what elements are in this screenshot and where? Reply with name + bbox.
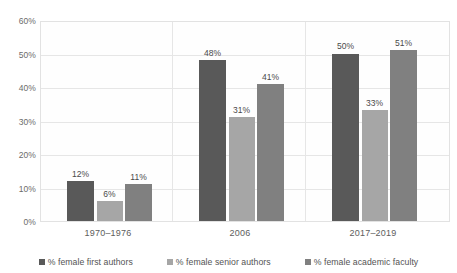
y-tick-label-0: 0% bbox=[2, 218, 36, 227]
y-tick-label-60: 60% bbox=[2, 17, 36, 26]
plot-area: 12% 6% 11% 48% 31% 41% 50% 33% 51% bbox=[40, 21, 450, 222]
bar-chart: 60% 50% 40% 30% 20% 10% 0% 12% 6% 11% 48… bbox=[0, 0, 457, 273]
legend-label-2: % female senior authors bbox=[176, 258, 271, 267]
x-category-label-1: 1970–1976 bbox=[85, 228, 132, 238]
legend-swatch-icon-2 bbox=[167, 259, 173, 265]
chart-legend: % female first authors % female senior a… bbox=[0, 253, 457, 271]
gridline-50 bbox=[41, 55, 449, 56]
bar-value-g3-s3: 51% bbox=[395, 39, 412, 48]
bar-value-g1-s1: 12% bbox=[72, 170, 89, 179]
group-separator-1 bbox=[172, 22, 173, 221]
y-axis: 60% 50% 40% 30% 20% 10% 0% bbox=[0, 21, 36, 222]
bar-g3-s3 bbox=[390, 50, 417, 221]
legend-swatch-icon-1 bbox=[39, 259, 45, 265]
bar-value-g2-s2: 31% bbox=[233, 106, 250, 115]
x-category-label-3: 2017–2019 bbox=[350, 228, 397, 238]
bar-value-g2-s3: 41% bbox=[262, 73, 279, 82]
bar-g3-s2 bbox=[362, 110, 388, 221]
bar-g1-s3 bbox=[125, 184, 152, 221]
bar-value-g2-s1: 48% bbox=[204, 49, 221, 58]
legend-label-3: % female academic faculty bbox=[314, 258, 419, 267]
bar-g2-s2 bbox=[229, 117, 255, 221]
y-tick-label-10: 10% bbox=[2, 184, 36, 193]
bar-value-g1-s2: 6% bbox=[103, 190, 115, 199]
legend-item-female-senior-authors[interactable]: % female senior authors bbox=[167, 258, 271, 267]
bar-value-g3-s1: 50% bbox=[337, 42, 354, 51]
bar-g2-s3 bbox=[257, 84, 284, 221]
x-category-label-2: 2006 bbox=[230, 228, 251, 238]
bar-g1-s1 bbox=[67, 181, 94, 221]
y-tick-label-40: 40% bbox=[2, 84, 36, 93]
bar-value-g1-s3: 11% bbox=[130, 173, 146, 182]
legend-item-female-academic-faculty[interactable]: % female academic faculty bbox=[305, 258, 419, 267]
bar-g1-s2 bbox=[97, 201, 123, 221]
y-tick-label-30: 30% bbox=[2, 117, 36, 126]
gridline-40 bbox=[41, 88, 449, 89]
bar-g3-s1 bbox=[332, 54, 359, 222]
legend-item-female-first-authors[interactable]: % female first authors bbox=[39, 258, 133, 267]
bar-value-g3-s2: 33% bbox=[366, 99, 383, 108]
y-tick-label-50: 50% bbox=[2, 50, 36, 59]
legend-label-1: % female first authors bbox=[48, 258, 133, 267]
y-tick-label-20: 20% bbox=[2, 151, 36, 160]
x-axis: 1970–1976 2006 2017–2019 bbox=[40, 228, 450, 244]
group-separator-2 bbox=[305, 22, 306, 221]
bar-g2-s1 bbox=[199, 60, 226, 221]
legend-swatch-icon-3 bbox=[305, 259, 311, 265]
